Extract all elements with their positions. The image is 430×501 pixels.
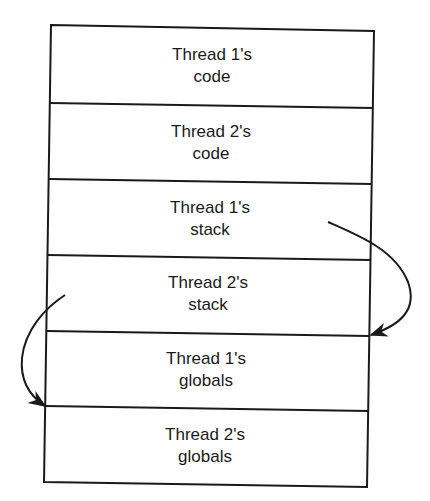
cell-thread1-globals: Thread 1's globals bbox=[106, 348, 306, 392]
cell-thread1-stack: Thread 1's stack bbox=[110, 197, 310, 241]
cell-label-line1: Thread 1's bbox=[106, 348, 306, 370]
arrow-left-stack2-to-globals2 bbox=[22, 295, 65, 406]
cell-label-line2: globals bbox=[105, 446, 305, 468]
cell-label-line1: Thread 2's bbox=[105, 424, 305, 446]
divider-stack1-stack2 bbox=[48, 255, 370, 260]
cell-thread1-code: Thread 1's code bbox=[112, 44, 312, 88]
divider-code1-code2 bbox=[50, 103, 373, 108]
cell-thread2-globals: Thread 2's globals bbox=[105, 424, 305, 468]
cell-label-line1: Thread 2's bbox=[111, 121, 311, 143]
cell-thread2-stack: Thread 2's stack bbox=[108, 272, 308, 316]
cell-label-line2: stack bbox=[110, 219, 310, 241]
cell-label-line2: code bbox=[111, 143, 311, 165]
divider-code2-stack1 bbox=[49, 179, 372, 184]
divider-stack2-globals1 bbox=[47, 331, 369, 336]
cell-label-line2: code bbox=[112, 66, 312, 88]
cell-label-line1: Thread 1's bbox=[110, 197, 310, 219]
cell-label-line2: stack bbox=[108, 294, 308, 316]
divider-globals1-globals2 bbox=[45, 406, 368, 411]
cell-thread2-code: Thread 2's code bbox=[111, 121, 311, 165]
cell-label-line1: Thread 1's bbox=[112, 44, 312, 66]
cell-label-line2: globals bbox=[106, 370, 306, 392]
cell-label-line1: Thread 2's bbox=[108, 272, 308, 294]
